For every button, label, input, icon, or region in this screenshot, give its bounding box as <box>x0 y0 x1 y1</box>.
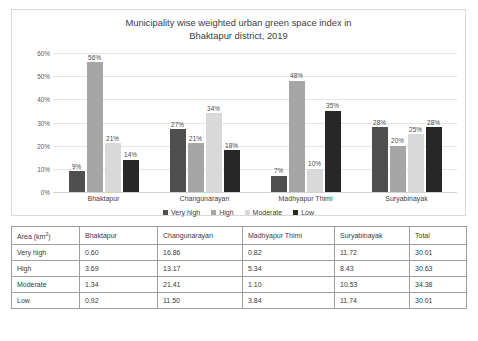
table-row: Very high0.6016.860.8211.7230.01 <box>12 245 467 261</box>
data-table: Area (km2)BhaktapurChangunarayanMadhyapu… <box>11 226 467 309</box>
legend-label: Very high <box>171 209 200 216</box>
table-cell: 5.34 <box>243 261 335 277</box>
chart-title-line-1: Municipality wise weighted urban green s… <box>12 17 465 30</box>
bar[interactable] <box>271 176 287 192</box>
bar-group: 7%48%10%35% <box>255 53 356 192</box>
bar-slot: 28% <box>426 53 442 192</box>
bar-slot: 10% <box>307 53 323 192</box>
table-header-row: Area (km2)BhaktapurChangunarayanMadhyapu… <box>12 227 467 245</box>
legend-item[interactable]: Low <box>293 209 314 216</box>
bar-slot: 56% <box>87 53 103 192</box>
bar-slot: 9% <box>69 53 85 192</box>
table-cell: 10.53 <box>335 277 410 293</box>
bar[interactable] <box>170 129 186 192</box>
table-row-label: Very high <box>12 245 80 261</box>
bar[interactable] <box>123 160 139 192</box>
bar-slot: 34% <box>206 53 222 192</box>
bar-group-bars: 9%56%21%14% <box>53 53 154 192</box>
bar[interactable] <box>390 146 406 192</box>
table-cell: 3.84 <box>243 293 335 309</box>
legend-label: Low <box>301 209 314 216</box>
bar[interactable] <box>224 150 240 192</box>
bar-slot: 14% <box>123 53 139 192</box>
bar-group-bars: 27%21%34%18% <box>154 53 255 192</box>
bar[interactable] <box>325 111 341 192</box>
bar-value-label: 7% <box>274 167 283 174</box>
bar-value-label: 18% <box>225 142 238 149</box>
plot-area: 9%56%21%14%27%21%34%18%7%48%10%35%28%20%… <box>53 53 457 192</box>
x-axis-labels: BhaktapurChangunarayanMadhyapur ThimiSur… <box>53 195 457 202</box>
chart-panel: Municipality wise weighted urban green s… <box>11 9 466 216</box>
table-head: Area (km2)BhaktapurChangunarayanMadhyapu… <box>12 227 467 245</box>
chart-legend: Very highHighModerateLow <box>12 209 465 216</box>
legend-label: High <box>219 209 233 216</box>
bar-group: 27%21%34%18% <box>154 53 255 192</box>
bar-slot: 20% <box>390 53 406 192</box>
bar[interactable] <box>289 81 305 192</box>
y-axis-tick-label: 30% <box>37 119 50 126</box>
bar[interactable] <box>408 134 424 192</box>
table-column-header: Suryabinayak <box>335 227 410 245</box>
bar-value-label: 35% <box>326 102 339 109</box>
bar-value-label: 21% <box>106 135 119 142</box>
bar-value-label: 20% <box>391 137 404 144</box>
table-cell: 1.34 <box>80 277 158 293</box>
table-cell: 11.72 <box>335 245 410 261</box>
table-cell: 3.69 <box>80 261 158 277</box>
bar-value-label: 25% <box>409 126 422 133</box>
chart-title-line-2: Bhaktapur district, 2019 <box>12 30 465 43</box>
bar-value-label: 14% <box>124 151 137 158</box>
table-row-label: Low <box>12 293 80 309</box>
bar-slot: 21% <box>105 53 121 192</box>
table-column-header: Total <box>410 227 467 245</box>
table-column-header: Changunarayan <box>158 227 243 245</box>
y-axis-tick-label: 50% <box>37 73 50 80</box>
legend-label: Moderate <box>253 209 283 216</box>
table-cell: 30.01 <box>410 245 467 261</box>
legend-item[interactable]: High <box>211 209 233 216</box>
legend-item[interactable]: Moderate <box>245 209 283 216</box>
bar-slot: 28% <box>372 53 388 192</box>
bar[interactable] <box>87 62 103 192</box>
bar[interactable] <box>372 127 388 192</box>
table-row: High3.6913.175.348.4330.63 <box>12 261 467 277</box>
bar-value-label: 56% <box>88 54 101 61</box>
chart-page: Municipality wise weighted urban green s… <box>0 0 478 341</box>
bar-value-label: 27% <box>171 121 184 128</box>
bar-slot: 21% <box>188 53 204 192</box>
table-row-label: Moderate <box>12 277 80 293</box>
bar-value-label: 21% <box>189 135 202 142</box>
bar[interactable] <box>307 169 323 192</box>
chart-title: Municipality wise weighted urban green s… <box>12 17 465 42</box>
y-axis-tick-label: 10% <box>37 165 50 172</box>
bar-slot: 48% <box>289 53 305 192</box>
table-cell: 8.43 <box>335 261 410 277</box>
legend-item[interactable]: Very high <box>163 209 200 216</box>
x-axis-category-label: Madhyapur Thimi <box>255 195 356 202</box>
x-axis-category-label: Suryabinayak <box>356 195 457 202</box>
table-cell: 0.60 <box>80 245 158 261</box>
y-axis-labels: 0%10%20%30%40%50%60% <box>24 53 50 192</box>
y-axis-tick-label: 40% <box>37 96 50 103</box>
bar-slot: 7% <box>271 53 287 192</box>
table-cell: 11.74 <box>335 293 410 309</box>
bar[interactable] <box>105 143 121 192</box>
bar[interactable] <box>69 171 85 192</box>
y-axis-tick-label: 0% <box>41 189 50 196</box>
bar-slot: 25% <box>408 53 424 192</box>
legend-swatch-icon <box>211 210 216 215</box>
bar-group: 28%20%25%28% <box>356 53 457 192</box>
table-cell: 1.10 <box>243 277 335 293</box>
bar-value-label: 28% <box>427 119 440 126</box>
table-cell: 13.17 <box>158 261 243 277</box>
table-column-header: Bhaktapur <box>80 227 158 245</box>
table-row-label: High <box>12 261 80 277</box>
bar[interactable] <box>206 113 222 192</box>
bar[interactable] <box>188 143 204 192</box>
bar-group: 9%56%21%14% <box>53 53 154 192</box>
bar-value-label: 10% <box>308 160 321 167</box>
table-cell: 0.82 <box>243 245 335 261</box>
bar[interactable] <box>426 127 442 192</box>
bar-group-bars: 7%48%10%35% <box>255 53 356 192</box>
y-axis-tick-label: 60% <box>37 50 50 57</box>
